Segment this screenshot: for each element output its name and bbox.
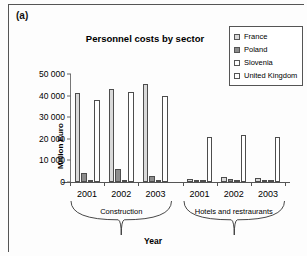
bar-france-0	[75, 93, 81, 182]
bar-slovenia-4	[234, 180, 240, 182]
bar-poland-5	[262, 180, 268, 182]
x-axis-tick-label: 2002	[111, 189, 131, 199]
figure-panel: (a) Personnel costs by sector FrancePola…	[0, 0, 307, 256]
legend-swatch-icon	[234, 60, 240, 66]
y-axis-tick-mark	[67, 95, 71, 96]
figure-frame-top-border	[8, 4, 304, 5]
brace-construction	[70, 200, 173, 236]
x-axis-tick-mark	[285, 182, 286, 186]
legend-item-poland[interactable]: Poland	[234, 43, 299, 56]
y-axis-tick-label: 30 000	[39, 112, 70, 122]
legend-item-label: Poland	[244, 45, 267, 54]
figure-frame-left-border	[8, 4, 9, 252]
y-axis-tick-label: 10 000	[39, 155, 70, 165]
y-axis-tick-mark	[67, 117, 71, 118]
bar-slovenia-2	[156, 180, 162, 182]
y-axis-tick-label: 50 000	[39, 69, 70, 79]
panel-label: (a)	[16, 10, 28, 21]
x-axis-tick-mark	[104, 182, 105, 186]
y-axis-tick-label: 40 000	[39, 91, 70, 101]
bar-united-kingdom-1	[128, 92, 134, 182]
bar-united-kingdom-4	[241, 135, 247, 182]
sector-group-label: Hotels and restraurants	[195, 207, 273, 216]
bar-united-kingdom-2	[162, 96, 168, 182]
bar-poland-4	[228, 179, 234, 182]
bar-slovenia-3	[200, 180, 206, 182]
chart-title: Personnel costs by sector	[60, 33, 230, 44]
legend-item-label: Slovenia	[244, 58, 273, 67]
x-axis-tick-label: 2002	[224, 189, 244, 199]
legend-item-slovenia[interactable]: Slovenia	[234, 56, 299, 69]
x-axis-line	[62, 182, 290, 183]
y-axis-tick-label: 20 000	[39, 134, 70, 144]
x-axis-tick-mark	[251, 182, 252, 186]
legend-item-france[interactable]: France	[234, 30, 299, 43]
bar-france-2	[143, 84, 149, 182]
bar-france-1	[109, 89, 115, 182]
x-axis-tick-label: 2001	[77, 189, 97, 199]
plot-area: Million Euro 010 00020 00030 00040 00050…	[70, 74, 285, 182]
bar-slovenia-1	[122, 180, 128, 182]
x-axis-tick-label: 2003	[258, 189, 278, 199]
legend-swatch-icon	[234, 34, 240, 40]
y-axis-tick-mark	[67, 160, 71, 161]
legend-item-label: France	[244, 32, 267, 41]
bar-poland-1	[115, 169, 121, 182]
x-axis-tick-label: 2001	[190, 189, 210, 199]
bar-poland-3	[194, 180, 200, 182]
x-axis-title: Year	[144, 236, 162, 246]
legend-swatch-icon	[234, 47, 240, 53]
x-axis-tick-mark	[138, 182, 139, 186]
bar-france-3	[187, 179, 193, 182]
bar-poland-0	[81, 173, 87, 182]
y-axis-tick-mark	[67, 74, 71, 75]
bar-slovenia-0	[88, 180, 94, 182]
x-axis-tick-mark	[70, 182, 71, 186]
x-axis-tick-mark	[217, 182, 218, 186]
bar-france-5	[255, 178, 261, 182]
bar-united-kingdom-3	[207, 137, 213, 182]
sector-group-label: Construction	[100, 207, 142, 216]
bar-united-kingdom-0	[94, 100, 100, 182]
x-axis-tick-label: 2003	[145, 189, 165, 199]
bar-slovenia-5	[268, 180, 274, 182]
x-axis-tick-mark	[183, 182, 184, 186]
bar-france-4	[221, 177, 227, 182]
bar-united-kingdom-5	[275, 137, 281, 182]
y-axis-tick-mark	[67, 138, 71, 139]
brace-hotels	[183, 200, 286, 236]
bar-poland-2	[149, 176, 155, 182]
